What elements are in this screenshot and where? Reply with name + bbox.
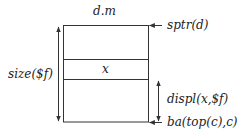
cell-x-label: x	[102, 62, 109, 76]
frame-top-label: d.m	[93, 4, 116, 18]
stack-frame-diagram: d.m x size($f) sptr(d) displ(x,$f) ba(to…	[0, 0, 241, 139]
base-label: ba(top(c),c)	[167, 115, 238, 129]
size-label: size($f)	[8, 67, 53, 81]
sptr-label: sptr(d)	[167, 18, 208, 32]
displ-label: displ(x,$f)	[167, 92, 228, 106]
